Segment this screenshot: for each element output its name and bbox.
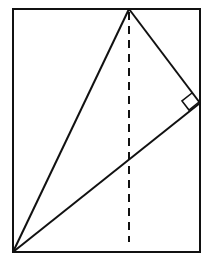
triangle-side-left: [13, 9, 129, 252]
outer-rectangle: [13, 9, 200, 252]
right-angle-marker: [182, 93, 199, 110]
geometry-diagram: [0, 0, 214, 261]
triangle-side-right: [129, 9, 200, 103]
triangle-side-bottom: [13, 103, 200, 252]
